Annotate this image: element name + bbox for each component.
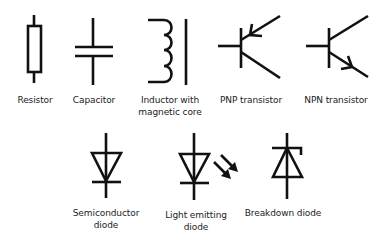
semiconductor-diode-symbol — [92, 133, 121, 198]
npn-label: NPN transistor — [304, 94, 367, 106]
label-line: Semiconductor — [73, 207, 139, 219]
label-line: diode — [165, 221, 227, 233]
label-line: PNP transistor — [220, 94, 282, 106]
label-line: Light emitting — [165, 209, 227, 221]
label-line: Inductor with — [138, 94, 201, 106]
label-line: NPN transistor — [304, 94, 367, 106]
label-line: diode — [73, 219, 139, 231]
breakdown-diode-symbol — [272, 133, 302, 199]
pnp-label: PNP transistor — [220, 94, 282, 106]
resistor-symbol — [28, 15, 41, 83]
label-line: Breakdown diode — [245, 207, 322, 219]
label-line: Resistor — [17, 94, 52, 106]
capacitor-label: Capacitor — [73, 94, 115, 106]
symbols-drawing — [0, 0, 388, 242]
label-line: Capacitor — [73, 94, 115, 106]
npn-transistor-symbol — [306, 16, 368, 77]
semiconductor-diode-label: Semiconductor diode — [73, 207, 139, 231]
breakdown-diode-label: Breakdown diode — [245, 207, 322, 219]
inductor-label: Inductor with magnetic core — [138, 94, 201, 118]
resistor-label: Resistor — [17, 94, 52, 106]
capacitor-symbol — [75, 18, 113, 85]
pnp-transistor-symbol — [218, 16, 280, 78]
label-line: magnetic core — [138, 106, 201, 118]
symbol-diagram: Resistor Capacitor Inductor with magneti… — [0, 0, 388, 242]
led-label: Light emitting diode — [165, 209, 227, 233]
inductor-symbol — [148, 19, 186, 85]
led-symbol — [180, 133, 238, 200]
